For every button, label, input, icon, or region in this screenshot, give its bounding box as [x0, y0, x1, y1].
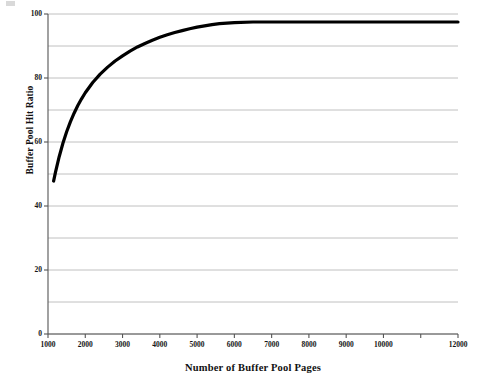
plot-area [0, 0, 485, 383]
x-tick-label: 10000 [361, 340, 405, 349]
gridlines [48, 14, 458, 334]
y-tick-label: 0 [10, 329, 42, 338]
y-axis-title: Buffer Pool Hit Ratio [25, 55, 35, 205]
chart-figure: 020406080100 100020003000400050006000700… [0, 0, 485, 383]
y-tick-marks [44, 14, 48, 334]
x-tick-label: 12000 [436, 340, 480, 349]
y-tick-label: 100 [10, 9, 42, 18]
y-tick-label: 20 [10, 265, 42, 274]
x-axis-title: Number of Buffer Pool Pages [48, 362, 458, 373]
x-tick-marks [48, 334, 458, 338]
